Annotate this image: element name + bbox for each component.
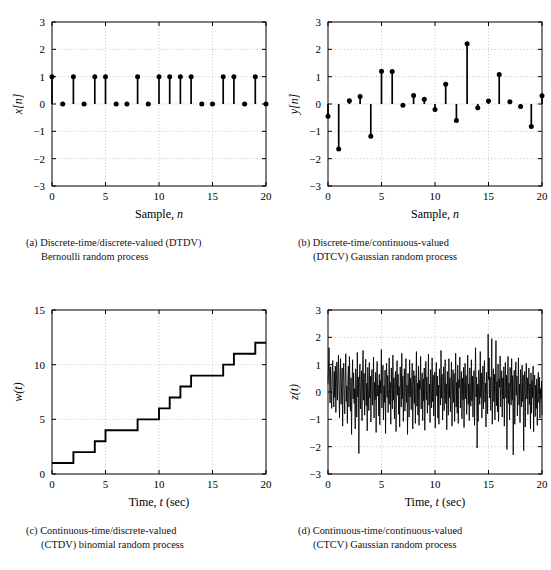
y-tick-label: 0 <box>40 98 46 110</box>
stem-marker <box>326 114 331 119</box>
y-axis-title: x[n] <box>11 93 25 115</box>
caption-b: (b) Discrete-time/continuous-valued (DTC… <box>276 236 551 263</box>
stem-marker <box>475 105 480 110</box>
x-tick-label: 0 <box>325 478 331 490</box>
stem-marker <box>368 134 373 139</box>
x-axis-title-text: Time, <box>129 495 160 509</box>
stem-marker <box>71 74 76 79</box>
y-tick-label: −1 <box>309 125 321 137</box>
y-tick-label: 5 <box>40 413 46 425</box>
stem-marker <box>178 74 183 79</box>
y-tick-label: 3 <box>316 16 322 28</box>
stem-marker <box>465 41 470 46</box>
x-tick-label: 15 <box>483 478 495 490</box>
y-tick-label: −3 <box>33 180 45 192</box>
stem-marker <box>390 69 395 74</box>
stem-marker <box>411 93 416 98</box>
stem-marker <box>92 74 97 79</box>
caption-b-line1: (b) Discrete-time/continuous-valued <box>298 237 449 248</box>
x-tick-label: 20 <box>261 190 273 202</box>
x-tick-label: 5 <box>379 478 385 490</box>
stem-marker <box>210 102 215 107</box>
x-tick-label: 15 <box>207 190 219 202</box>
y-tick-label: 3 <box>316 304 322 316</box>
x-tick-label: 15 <box>483 190 495 202</box>
x-tick-label: 5 <box>379 190 385 202</box>
stem-marker <box>135 74 140 79</box>
stem-marker <box>507 99 512 104</box>
x-tick-label: 15 <box>207 478 219 490</box>
stem-marker <box>347 98 352 103</box>
caption-b-line2: (DTCV) Gaussian random process <box>298 250 551 264</box>
axes-box <box>52 310 266 474</box>
stem-marker <box>253 74 258 79</box>
x-tick-label: 10 <box>430 478 442 490</box>
plot-c-step-binomial: 05101520051015Time, t (sec)w(t) <box>0 288 275 520</box>
y-tick-label: −3 <box>309 180 321 192</box>
caption-c-line1: (c) Continuous-time/discrete-valued <box>26 525 176 536</box>
y-tick-label: −1 <box>309 413 321 425</box>
stem-marker <box>529 124 534 129</box>
x-tick-label: 10 <box>154 478 166 490</box>
caption-d-line2: (CTCV) Gaussian random process <box>298 538 551 552</box>
stem-marker <box>103 74 108 79</box>
chart-c-svg: 05101520051015Time, t (sec)w(t) <box>0 288 275 520</box>
stem-marker <box>518 104 523 109</box>
x-axis-title-variable: n <box>177 207 183 221</box>
y-tick-label: 0 <box>316 98 322 110</box>
stem-marker <box>50 74 55 79</box>
caption-a: (a) Discrete-time/discrete-valued (DTDV)… <box>0 236 275 263</box>
stem-marker <box>497 72 502 77</box>
stem-marker <box>199 102 204 107</box>
x-axis-title: Sample, n <box>411 207 459 221</box>
stem-marker <box>443 82 448 87</box>
stem-marker <box>146 102 151 107</box>
stem-marker <box>82 102 87 107</box>
x-tick-label: 0 <box>49 190 55 202</box>
y-tick-label: 3 <box>40 16 46 28</box>
caption-c-line2: (CTDV) binomial random process <box>26 538 275 552</box>
y-axis-title: y[n] <box>287 93 301 115</box>
y-tick-label: 1 <box>316 359 322 371</box>
y-tick-label: 2 <box>316 43 322 55</box>
stem-marker <box>221 74 226 79</box>
x-tick-label: 5 <box>103 190 109 202</box>
x-tick-label: 10 <box>430 190 442 202</box>
chart-a-svg: 05101520−3−2−10123Sample, nx[n] <box>0 0 275 232</box>
y-tick-label: −3 <box>309 468 321 480</box>
y-axis-title: w(t) <box>11 382 25 401</box>
y-tick-label: 2 <box>316 331 322 343</box>
y-tick-label: 0 <box>316 386 322 398</box>
x-axis-title-text: Time, <box>405 495 436 509</box>
panel-d: 05101520−3−2−10123Time, t (sec)z(t) (d) … <box>276 288 551 570</box>
y-tick-label: 10 <box>34 359 46 371</box>
panel-b: 05101520−3−2−10123Sample, ny[n] (b) Disc… <box>276 0 551 285</box>
y-tick-label: −2 <box>33 153 45 165</box>
x-axis-title-tail: (sec) <box>163 495 189 509</box>
caption-a-line2: Bernoulli random process <box>26 250 275 264</box>
x-tick-label: 5 <box>103 478 109 490</box>
x-tick-label: 20 <box>537 478 549 490</box>
x-tick-label: 0 <box>49 478 55 490</box>
stem-marker <box>114 102 119 107</box>
stem-marker <box>400 103 405 108</box>
figure-four-random-processes: 05101520−3−2−10123Sample, nx[n] (a) Disc… <box>0 0 551 570</box>
x-axis-title: Time, t (sec) <box>129 495 190 509</box>
stem-marker <box>336 147 341 152</box>
plot-d-line-noise: 05101520−3−2−10123Time, t (sec)z(t) <box>276 288 551 520</box>
stem-marker <box>422 97 427 102</box>
stem-marker <box>540 93 545 98</box>
caption-a-line1: (a) Discrete-time/discrete-valued (DTDV) <box>26 237 201 248</box>
y-tick-label: 2 <box>40 43 46 55</box>
x-axis-title: Sample, n <box>135 207 183 221</box>
y-tick-label: 0 <box>40 468 46 480</box>
stem-marker <box>433 107 438 112</box>
x-axis-title-text: Sample, <box>411 207 453 221</box>
caption-c: (c) Continuous-time/discrete-valued (CTD… <box>0 524 275 551</box>
stem-marker <box>242 102 247 107</box>
x-axis-title: Time, t (sec) <box>405 495 466 509</box>
panel-c: 05101520051015Time, t (sec)w(t) (c) Cont… <box>0 288 275 570</box>
y-tick-label: −2 <box>309 153 321 165</box>
stem-marker <box>358 94 363 99</box>
x-axis-title-tail: (sec) <box>439 495 465 509</box>
